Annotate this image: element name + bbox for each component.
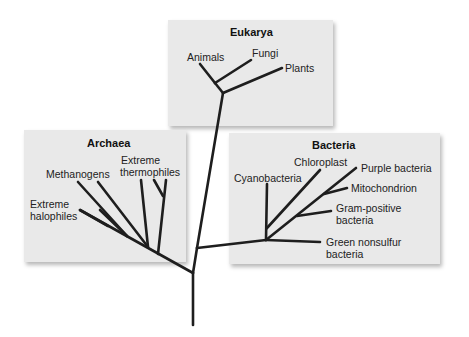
chloroplast-label: Chloroplast xyxy=(294,156,347,168)
gram-positive-label-line1: Gram-positive xyxy=(336,202,401,214)
plants-label: Plants xyxy=(285,62,314,74)
eukarya-title: Eukarya xyxy=(230,26,273,38)
fungi-label: Fungi xyxy=(252,47,278,59)
thermophiles-label-line2: thermophiles xyxy=(120,166,180,178)
gram-positive-label-line2: bacteria xyxy=(336,214,373,226)
archaea-title: Archaea xyxy=(87,137,130,149)
cyanobacteria-branch xyxy=(266,184,267,240)
mitochondrion-label: Mitochondrion xyxy=(351,182,417,194)
thermophile-twig xyxy=(154,180,163,196)
fungi-branch xyxy=(215,60,251,83)
halophiles-label-line1: Extreme xyxy=(30,198,69,210)
eukarya-stem xyxy=(197,93,223,248)
bacteria-title: Bacteria xyxy=(312,139,355,151)
cyanobacteria-label: Cyanobacteria xyxy=(234,172,302,184)
trunk-segment xyxy=(193,248,197,273)
green-nonsulfur-branch xyxy=(266,240,320,242)
purple-bacteria-label: Purple bacteria xyxy=(361,162,432,174)
eukarya-inner-branch xyxy=(215,83,223,93)
green-nonsulfur-label-line1: Green nonsulfur xyxy=(326,236,401,248)
bacteria-stem xyxy=(197,240,266,248)
halophiles-label-line2: halophiles xyxy=(30,210,77,222)
methanogens-label: Methanogens xyxy=(46,168,110,180)
green-nonsulfur-label-line2: bacteria xyxy=(326,248,363,260)
thermophile-branch-1 xyxy=(141,180,148,247)
animals-branch xyxy=(200,64,215,83)
animals-label: Animals xyxy=(187,51,224,63)
thermophiles-label-line1: Extreme xyxy=(121,154,160,166)
